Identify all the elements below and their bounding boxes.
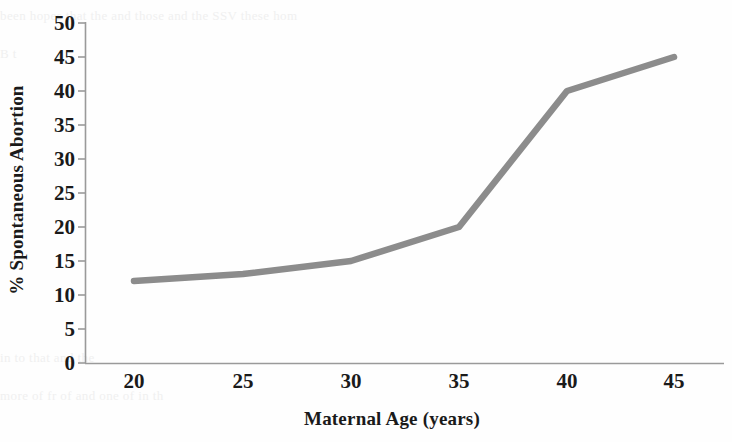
x-tick-label: 25 [213,371,273,392]
x-tick-label: 35 [429,371,489,392]
plot-area: 50 45 40 35 30 25 20 15 10 5 0 20 25 30 … [0,0,732,442]
y-axis-title-text: % Spontaneous Abortion [6,85,28,294]
y-tick-label: 10 [31,285,75,306]
y-tick-label: 0 [31,353,75,374]
y-tick-label: 45 [31,47,75,68]
x-axis-title-text: Maternal Age (years) [252,408,480,429]
y-tick-label: 50 [31,13,75,34]
y-axis-ticks [78,23,85,363]
y-tick-label: 5 [31,319,75,340]
chart-figure: been hopes that the and those and the SS… [0,0,732,442]
y-tick-label: 15 [31,251,75,272]
y-tick-label: 25 [31,183,75,204]
y-tick-label: 40 [31,81,75,102]
x-axis-title: Maternal Age (years) [0,408,732,430]
y-tick-label: 30 [31,149,75,170]
y-axis-title: % Spontaneous Abortion [2,0,32,380]
x-tick-label: 20 [104,371,164,392]
y-tick-label: 35 [31,115,75,136]
data-series-line [134,57,674,281]
x-tick-label: 40 [537,371,597,392]
x-tick-label: 45 [644,371,704,392]
x-tick-label: 30 [321,371,381,392]
y-tick-label: 20 [31,217,75,238]
